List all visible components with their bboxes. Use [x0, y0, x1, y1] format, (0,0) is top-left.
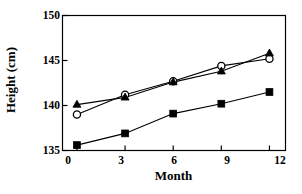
data-point-circle-open	[73, 111, 80, 118]
data-point-square-filled	[218, 100, 225, 107]
data-point-square-filled	[122, 130, 129, 137]
data-point-triangle-filled	[265, 49, 273, 56]
data-point-square-filled	[266, 89, 273, 96]
series-lines	[77, 53, 270, 145]
line-chart: Height (cm) 150 145 140 135 0 3 6 9 12 M…	[0, 0, 302, 194]
data-point-square-filled	[170, 110, 177, 117]
data-point-square-filled	[74, 142, 81, 149]
x-axis-title: Month	[62, 168, 285, 184]
plot-area	[0, 0, 302, 194]
